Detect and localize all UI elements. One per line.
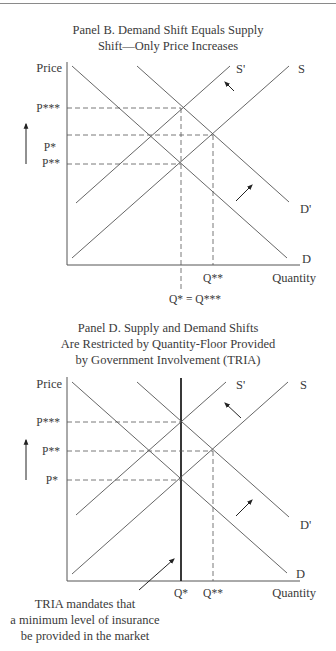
panel-b-p-low-label: P** bbox=[42, 157, 60, 169]
panel-d-p-top-label: P*** bbox=[36, 416, 60, 428]
panel-b-d-label: D bbox=[302, 252, 311, 266]
panel-b-price-label: Price bbox=[36, 61, 62, 75]
panel-b-chart: Price S' S P*** P* P** D' D Q** Quantity… bbox=[26, 61, 317, 305]
panel-b-quantity-label: Quantity bbox=[272, 271, 316, 285]
panel-d-note-line1: TRIA mandates that bbox=[0, 596, 170, 612]
panel-b-d-prime-label: D' bbox=[300, 202, 311, 216]
panel-b-p-top-label: P*** bbox=[36, 102, 60, 114]
panel-d-tria-arrow-icon bbox=[139, 559, 174, 590]
panel-d-price-label: Price bbox=[36, 377, 62, 391]
panel-d-chart: Price S' S P*** P** P* D' D Q* Q** Quant… bbox=[26, 377, 317, 600]
panel-d-title-line1: Panel D. Supply and Demand Shifts bbox=[0, 320, 336, 336]
panel-d-demand-shift-arrow-icon bbox=[236, 500, 252, 516]
panel-b-supply-s-prime bbox=[76, 66, 230, 203]
panel-d-demand-d bbox=[72, 382, 287, 573]
panel-d-supply-s-prime bbox=[76, 382, 226, 515]
panel-b-demand-shift-arrow-icon bbox=[236, 185, 252, 201]
panel-d-supply-shift-arrow-icon bbox=[225, 403, 241, 418]
panel-d-title: Panel D. Supply and Demand Shifts Are Re… bbox=[0, 320, 336, 368]
panel-d-q-right-label: Q** bbox=[203, 587, 223, 599]
panel-d-quantity-label: Quantity bbox=[272, 586, 316, 600]
panel-d-d-prime-label: D' bbox=[300, 518, 311, 532]
panel-d-tria-note: TRIA mandates that a minimum level of in… bbox=[0, 596, 170, 644]
panel-d-p-mid-label: P** bbox=[42, 445, 60, 457]
panel-d-title-line2: Are Restricted by Quantity-Floor Provide… bbox=[0, 336, 336, 352]
panel-b-p-mid-label: P* bbox=[44, 141, 56, 153]
panel-d-s-prime-label: S' bbox=[236, 378, 245, 392]
panel-d-s-label: S bbox=[300, 378, 307, 392]
panel-b-s-prime-label: S' bbox=[236, 62, 245, 76]
panel-d-note-line3: be provided in the market bbox=[0, 628, 170, 644]
panel-d-p-low-label: P* bbox=[46, 474, 58, 486]
panel-d-note-line2: a minimum level of insurance bbox=[0, 612, 170, 628]
panel-d-q-left-label: Q* bbox=[174, 587, 188, 599]
panel-b-s-label: S bbox=[298, 62, 305, 76]
panel-b-supply-shift-arrow-icon bbox=[225, 82, 234, 91]
panel-d-demand-d-prime bbox=[137, 382, 289, 517]
panel-d-title-line3: by Government Involvement (TRIA) bbox=[0, 352, 336, 368]
panel-d-d-label: D bbox=[296, 567, 305, 581]
panel-b-q-left-label: Q* = Q*** bbox=[169, 293, 221, 305]
panel-b-q-right-label: Q** bbox=[203, 272, 223, 284]
